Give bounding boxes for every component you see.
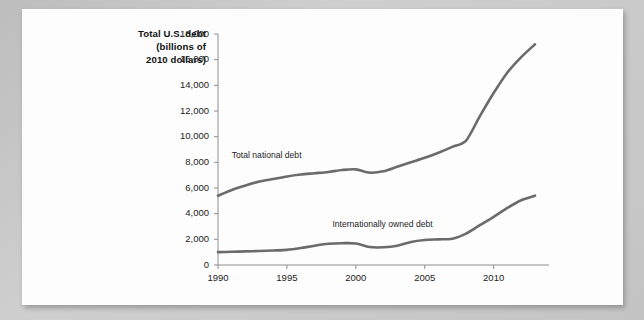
x-tick-label: 2000 [345, 272, 366, 283]
series-label: Internationally owned debt [332, 219, 433, 229]
y-tick-label: 16,000 [180, 53, 209, 64]
y-tick-label: 4,000 [185, 207, 209, 218]
y-tick-label: 2,000 [185, 233, 209, 244]
series-line-total-national-debt [218, 44, 535, 195]
series-label: Total national debt [232, 150, 302, 160]
y-tick-label: 6,000 [185, 182, 209, 193]
x-tick-label: 1990 [207, 272, 228, 283]
series-label-group: Total national debtInternationally owned… [232, 150, 434, 229]
y-tick-label: 12,000 [180, 105, 209, 116]
y-tick-label: 0 [204, 259, 209, 270]
y-tick-label: 10,000 [180, 130, 209, 141]
y-tick-label: 18,000 [180, 28, 209, 39]
x-tick-label: 2010 [483, 272, 504, 283]
figure-card: Total U.S. debt (billions of 2010 dollar… [22, 9, 623, 305]
x-tick-label: 1995 [276, 272, 297, 283]
x-tick-label: 2005 [414, 272, 435, 283]
y-tick-label: 14,000 [180, 79, 209, 90]
y-axis-ticks: 02,0004,0006,0008,00010,00012,00014,0001… [180, 28, 218, 270]
x-axis-ticks: 19901995200020052010 [207, 265, 504, 283]
line-chart-svg: 02,0004,0006,0008,00010,00012,00014,0001… [22, 9, 623, 305]
figure-page: Total U.S. debt (billions of 2010 dollar… [0, 0, 644, 320]
chart-plot-area: 02,0004,0006,0008,00010,00012,00014,0001… [22, 9, 623, 305]
y-tick-label: 8,000 [185, 156, 209, 167]
